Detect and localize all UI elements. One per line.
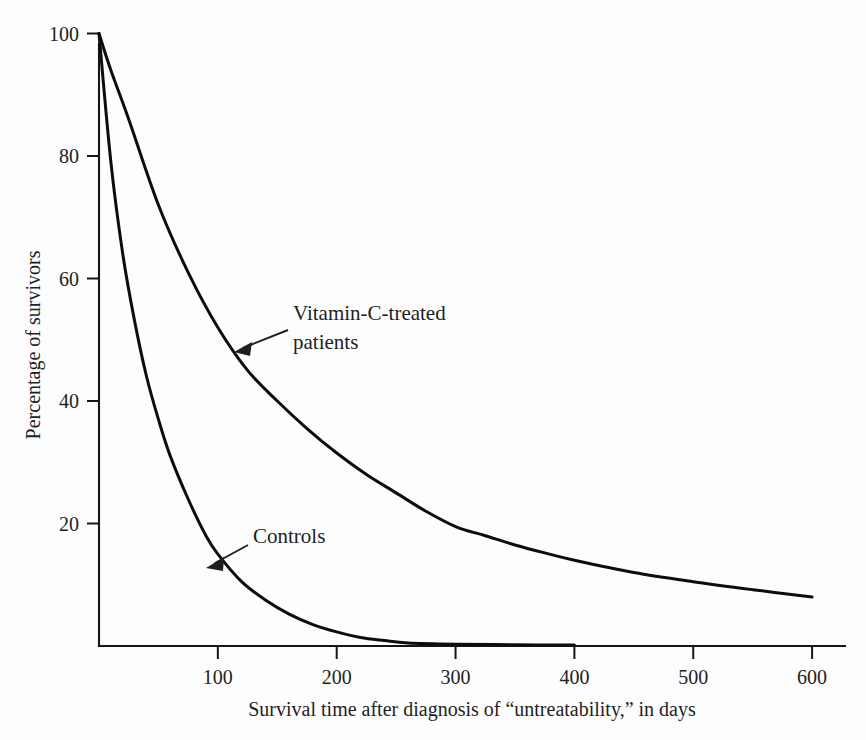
- y-tick-label: 40: [59, 390, 79, 412]
- x-tick-label: 300: [441, 666, 471, 688]
- y-tick-label: 20: [59, 513, 79, 535]
- x-tick-label: 400: [559, 666, 589, 688]
- survival-curve-figure: 20406080100 100200300400500600 Vitamin-C…: [0, 0, 866, 740]
- y-axis-ticks: 20406080100: [49, 23, 99, 535]
- y-tick-label: 60: [59, 268, 79, 290]
- annotation-vitamin-c-treated: Vitamin-C-treated patients: [234, 301, 446, 356]
- chart-canvas: 20406080100 100200300400500600 Vitamin-C…: [0, 0, 866, 740]
- axes-group: [99, 44, 845, 646]
- y-tick-label: 80: [59, 145, 79, 167]
- annotation-label-vitamin-c-line1: Vitamin-C-treated: [293, 301, 446, 325]
- y-axis-title: Percentage of survivors: [22, 250, 45, 439]
- x-tick-label: 200: [322, 666, 352, 688]
- x-tick-label: 600: [797, 666, 827, 688]
- annotation-label-controls: Controls: [253, 524, 325, 548]
- data-curves: [99, 34, 812, 646]
- annotation-label-vitamin-c-line2: patients: [293, 330, 358, 354]
- annotation-arrow-head-controls: [206, 557, 224, 571]
- x-tick-label: 100: [203, 666, 233, 688]
- series-line-vitamin-c-treated: [99, 34, 812, 598]
- x-axis-ticks: 100200300400500600: [203, 646, 827, 688]
- y-tick-label: 100: [49, 23, 79, 45]
- x-tick-label: 500: [678, 666, 708, 688]
- x-axis-title: Survival time after diagnosis of “untrea…: [248, 698, 696, 721]
